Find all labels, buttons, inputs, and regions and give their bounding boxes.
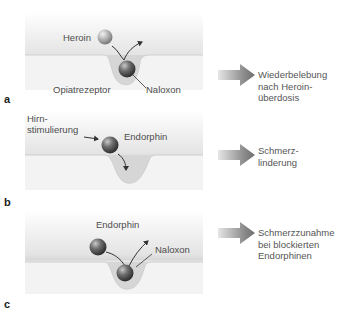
naloxon-molecule-icon bbox=[117, 265, 134, 282]
panel-letter-b: b bbox=[4, 196, 11, 208]
endorphin-label: Endorphin bbox=[124, 131, 167, 142]
panel-b: Hirn- stimulierung Endorphin b Schmerz- … bbox=[0, 110, 337, 210]
result-text-a: Wiederbelebung nach Heroin- überdosis bbox=[258, 69, 327, 104]
endorphin-molecule-icon bbox=[102, 137, 119, 154]
heroin-molecule-icon bbox=[98, 30, 113, 45]
endorphin-label: Endorphin bbox=[96, 219, 139, 230]
result-arrow-icon bbox=[218, 144, 255, 166]
panel-letter-c: c bbox=[4, 298, 10, 310]
heroin-label: Heroin bbox=[63, 32, 91, 43]
panel-a: Heroin Opiatrezeptor Naloxon a Wiederbel… bbox=[0, 0, 337, 105]
stimulation-label: Hirn- stimulierung bbox=[27, 113, 78, 135]
result-arrow-icon bbox=[218, 222, 255, 244]
naloxon-label: Naloxon bbox=[146, 84, 181, 95]
naloxon-label: Naloxon bbox=[155, 244, 190, 255]
result-text-c: Schmerzzunahme bei blockierten Endorphin… bbox=[258, 227, 335, 262]
panel-letter-a: a bbox=[4, 93, 10, 105]
receptor-label: Opiatrezeptor bbox=[53, 84, 111, 95]
naloxon-molecule-icon bbox=[119, 61, 136, 78]
endorphin-molecule-icon bbox=[90, 239, 107, 256]
panel-c: Endorphin Naloxon c Schmerzzunahme bei b… bbox=[0, 210, 337, 312]
result-arrow-icon bbox=[218, 64, 255, 86]
result-text-b: Schmerz- linderung bbox=[258, 145, 299, 168]
